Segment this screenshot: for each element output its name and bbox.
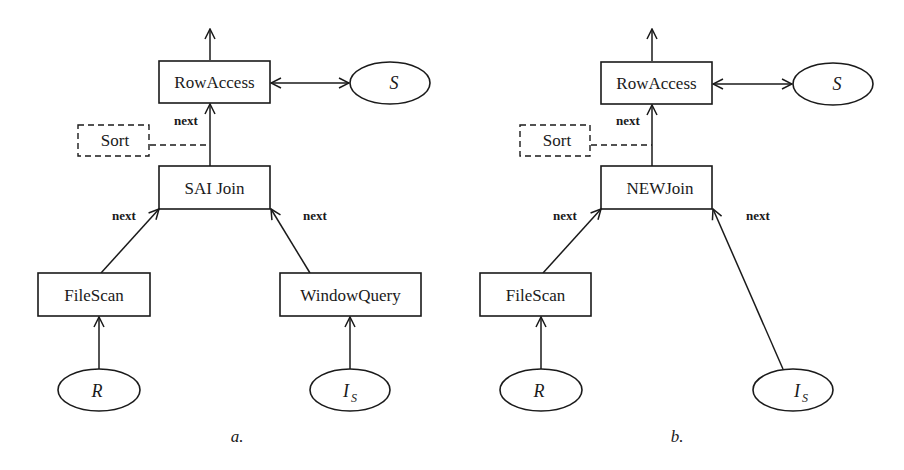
is-index-label: I	[342, 381, 350, 401]
diagram-a: RowAccess S next Sort SAI Join next next	[38, 29, 430, 446]
next-label: next	[746, 208, 771, 223]
is-index-label: I	[793, 381, 801, 401]
sort-node: Sort	[78, 125, 149, 156]
query-plan-diagrams: RowAccess S next Sort SAI Join next next	[0, 0, 904, 470]
s-relation-label: S	[833, 74, 842, 94]
filescan-node: FileScan	[38, 273, 150, 316]
filescan-label: FileScan	[64, 286, 124, 305]
sort-label: Sort	[101, 131, 130, 150]
windowquery-node: WindowQuery	[280, 273, 421, 316]
join-node: SAI Join	[159, 166, 270, 209]
next-label: next	[553, 208, 578, 223]
rowaccess-node: RowAccess	[159, 61, 270, 103]
join-node: NEWJoin	[601, 166, 712, 209]
is-index-subscript: S	[351, 391, 357, 405]
rowaccess-node: RowAccess	[601, 62, 712, 104]
is-index-node: I S	[753, 369, 833, 411]
sort-label: Sort	[543, 131, 572, 150]
r-relation-node: R	[58, 369, 140, 411]
caption-a: a.	[231, 427, 244, 446]
next-label: next	[174, 113, 199, 128]
filescan-label: FileScan	[506, 286, 566, 305]
diagram-b: RowAccess S next Sort NEWJoin next next …	[480, 29, 873, 446]
rowaccess-label: RowAccess	[174, 73, 254, 92]
s-relation-label: S	[390, 73, 399, 93]
next-label: next	[616, 113, 641, 128]
join-label: NEWJoin	[626, 179, 694, 198]
windowquery-label: WindowQuery	[300, 286, 401, 305]
r-relation-node: R	[500, 369, 582, 411]
is-index-node: I S	[310, 369, 390, 411]
r-relation-label: R	[533, 381, 545, 401]
filescan-node: FileScan	[480, 273, 591, 316]
rowaccess-label: RowAccess	[616, 74, 696, 93]
is-index-subscript: S	[802, 391, 808, 405]
r-relation-label: R	[91, 381, 103, 401]
s-relation-node: S	[793, 63, 873, 105]
sort-node: Sort	[520, 125, 590, 156]
next-label: next	[303, 208, 328, 223]
next-arrow-icon	[713, 209, 783, 369]
caption-b: b.	[671, 427, 684, 446]
s-relation-node: S	[350, 62, 430, 104]
join-label: SAI Join	[185, 179, 245, 198]
next-label: next	[112, 208, 137, 223]
